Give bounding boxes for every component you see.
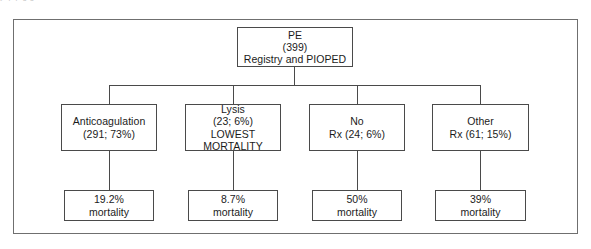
node-outcome-other-rx-line-2: mortality xyxy=(460,206,500,218)
connector-no-rx-to-outcome xyxy=(357,151,358,190)
node-outcome-other-rx: 39% mortality xyxy=(435,190,526,221)
node-outcome-lysis: 8.7% mortality xyxy=(188,190,278,221)
connector-drop-no-rx xyxy=(357,85,358,104)
node-outcome-no-rx-line-1: 50% xyxy=(346,193,367,205)
node-treatment-anticoagulation-line-2: (291; 73%) xyxy=(83,128,135,140)
node-treatment-other-rx-line-2: Rx (61; 15%) xyxy=(450,128,512,140)
node-treatment-other-rx-line-1: Other xyxy=(467,115,494,127)
node-outcome-no-rx: 50% mortality xyxy=(312,190,402,221)
node-outcome-anticoagulation: 19.2% mortality xyxy=(64,190,154,221)
node-treatment-no-rx-line-1: No xyxy=(350,115,364,127)
connector-anticoagulation-to-outcome xyxy=(109,151,110,190)
caption-remnant: y, p p g g xyxy=(0,0,591,7)
connector-drop-lysis xyxy=(233,85,234,104)
node-treatment-no-rx-line-2: Rx (24; 6%) xyxy=(329,128,385,140)
node-treatment-other-rx: Other Rx (61; 15%) xyxy=(432,104,529,151)
node-outcome-lysis-line-1: 8.7% xyxy=(221,193,245,205)
figure-page: y, p p g g PE (399) Registry and PIOPED … xyxy=(0,0,591,249)
node-treatment-anticoagulation-line-1: Anticoagulation xyxy=(73,115,146,127)
caption-remnant-text: y, p p g g xyxy=(0,0,34,1)
connector-drop-anticoagulation xyxy=(109,85,110,104)
node-treatment-lysis-line-3: LOWEST xyxy=(211,128,256,140)
connector-root-stem xyxy=(294,67,295,85)
node-outcome-lysis-line-2: mortality xyxy=(213,206,253,218)
node-root-line-1: PE xyxy=(288,29,302,41)
node-root-line-2: (399) xyxy=(283,41,308,53)
node-outcome-other-rx-line-1: 39% xyxy=(470,193,491,205)
node-outcome-anticoagulation-line-1: 19.2% xyxy=(94,193,124,205)
connector-other-rx-to-outcome xyxy=(480,151,481,190)
node-treatment-lysis-line-1: Lysis xyxy=(221,103,245,115)
figure-frame: PE (399) Registry and PIOPED Anticoagula… xyxy=(13,19,578,234)
connector-drop-other-rx xyxy=(480,85,481,104)
node-root-pe: PE (399) Registry and PIOPED xyxy=(237,27,353,67)
node-treatment-lysis-line-2: (23; 6%) xyxy=(213,115,253,127)
node-outcome-no-rx-line-2: mortality xyxy=(337,206,377,218)
node-treatment-lysis: Lysis (23; 6%) LOWEST MORTALITY xyxy=(185,104,281,151)
node-outcome-anticoagulation-line-2: mortality xyxy=(89,206,129,218)
connector-lysis-to-outcome xyxy=(233,151,234,190)
node-treatment-no-rx: No Rx (24; 6%) xyxy=(309,104,405,151)
connector-horizontal-bus xyxy=(109,85,480,86)
node-treatment-anticoagulation: Anticoagulation (291; 73%) xyxy=(61,104,157,151)
node-root-line-3: Registry and PIOPED xyxy=(244,53,347,65)
